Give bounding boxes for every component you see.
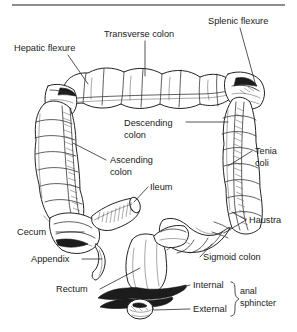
label-haustra: Haustra: [249, 215, 282, 225]
label-sigmoid-colon: Sigmoid colon: [203, 252, 261, 262]
label-cecum: Cecum: [17, 227, 46, 237]
leader-ileum: [134, 187, 148, 202]
label-descending-colon-line1: Descending: [124, 118, 173, 128]
label-anal-sphincter-line2: sphincter: [240, 298, 276, 308]
label-anal-sphincter-line1: anal: [240, 286, 257, 296]
label-ascending-colon-line1: Ascending: [110, 155, 153, 165]
label-descending-colon-line2: colon: [124, 130, 146, 140]
label-appendix: Appendix: [31, 254, 70, 264]
label-hepatic-flexure: Hepatic flexure: [14, 43, 75, 53]
anatomy-figure: Hepatic flexure Transverse colon Splenic…: [0, 0, 297, 332]
label-splenic-flexure: Splenic flexure: [208, 16, 268, 26]
illustration-group: [35, 68, 265, 319]
transverse-colon-structure: [62, 68, 236, 109]
label-ascending-colon-line2: colon: [110, 167, 132, 177]
leader-external-sphincter: [154, 309, 190, 310]
label-internal: Internal: [193, 280, 224, 290]
label-ileum: Ileum: [150, 182, 173, 192]
label-external: External: [193, 304, 227, 314]
appendix-structure: [92, 244, 105, 280]
label-tenia-coli-line1: Tenia: [255, 146, 278, 156]
label-transverse-colon: Transverse colon: [104, 29, 174, 39]
large-intestine-diagram: Hepatic flexure Transverse colon Splenic…: [0, 0, 297, 332]
label-rectum: Rectum: [56, 284, 88, 294]
anal-sphincter-brace: [231, 282, 239, 316]
label-tenia-coli-line2: coli: [255, 158, 269, 168]
ascending-colon-structure: [35, 101, 84, 230]
top-divider-rule: [12, 4, 285, 6]
rectum-structure: [126, 225, 189, 293]
